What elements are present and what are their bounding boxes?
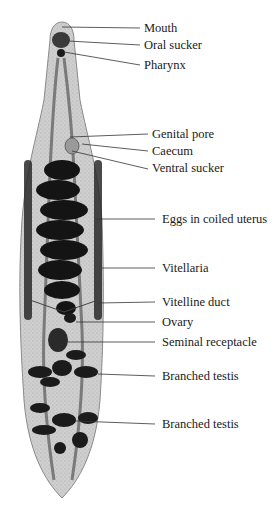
label-oral-sucker: Oral sucker bbox=[144, 38, 202, 52]
oral-sucker-shape bbox=[52, 32, 70, 48]
leader-line-vitelline-duct bbox=[98, 302, 155, 303]
label-vitelline-duct: Vitelline duct bbox=[162, 295, 230, 309]
label-branched-testis-2: Branched testis bbox=[162, 417, 239, 431]
seminal-receptacle-shape bbox=[48, 328, 68, 352]
label-genital-pore: Genital pore bbox=[152, 127, 214, 141]
pharynx-shape bbox=[57, 49, 65, 57]
leader-line-mouth bbox=[62, 27, 140, 28]
vitellaria-left bbox=[24, 160, 32, 320]
label-seminal-receptacle: Seminal receptacle bbox=[162, 335, 257, 349]
ventral-sucker-shape bbox=[65, 138, 79, 154]
label-ovary: Ovary bbox=[162, 315, 193, 329]
label-mouth: Mouth bbox=[144, 21, 177, 35]
label-branched-testis-1: Branched testis bbox=[162, 369, 239, 383]
label-caecum: Caecum bbox=[152, 144, 193, 158]
vitellaria-right bbox=[94, 160, 102, 320]
ovary-shape bbox=[64, 313, 76, 323]
leader-line-oral-sucker bbox=[68, 41, 140, 45]
label-ventral-sucker: Ventral sucker bbox=[152, 161, 224, 175]
leader-line-caecum bbox=[82, 144, 148, 151]
label-pharynx: Pharynx bbox=[144, 58, 186, 72]
fluke-diagram bbox=[0, 0, 280, 521]
label-vitellaria: Vitellaria bbox=[162, 261, 208, 275]
leader-line-testis-1 bbox=[98, 374, 155, 376]
label-eggs-in-coiled-uterus: Eggs in coiled uterus bbox=[162, 212, 267, 226]
